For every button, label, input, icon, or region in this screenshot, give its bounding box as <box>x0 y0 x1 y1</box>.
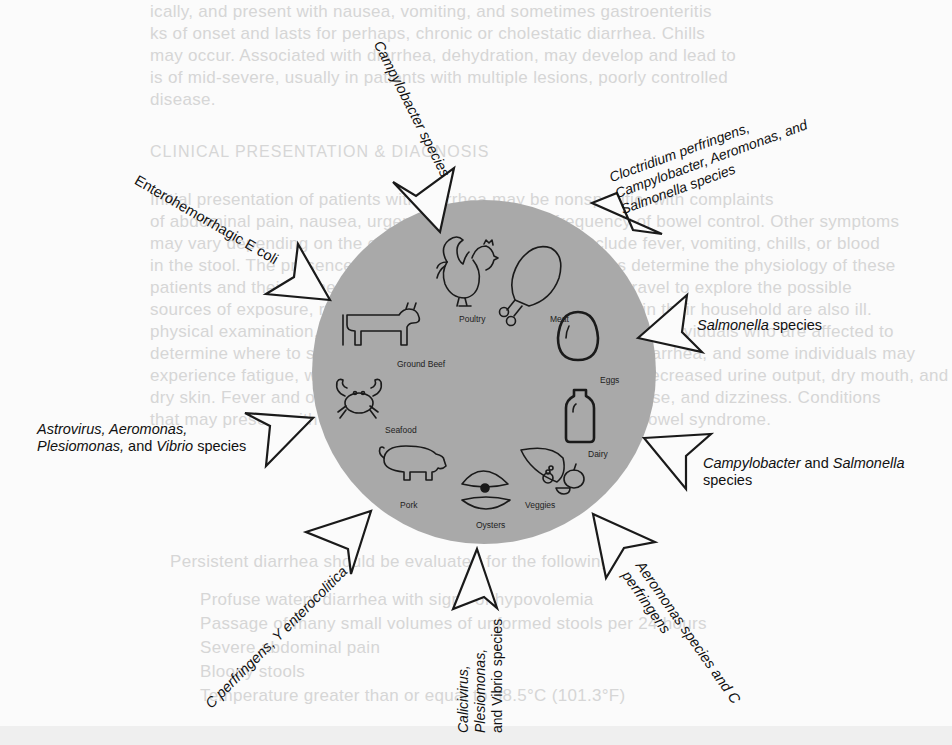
arrow-campy-salmonella <box>644 434 711 489</box>
food-label-seafood: Seafood <box>385 425 417 435</box>
label-astrovirus: Astrovirus, Aeromonas, Plesiomonas, and … <box>37 421 246 455</box>
label-calicivirus: Calicivirus, Plesiomonas, and Vibrio spe… <box>455 619 506 733</box>
food-label-dairy: Dairy <box>588 449 608 459</box>
food-label-ground-beef: Ground Beef <box>397 359 445 369</box>
label-campylobacter-salmonella: Campylobacter and Salmonella species <box>703 455 905 489</box>
food-label-poultry: Poultry <box>459 314 485 324</box>
foodborne-pathogen-diagram: Poultry Meat Eggs Dairy Veggies Oysters … <box>0 0 952 745</box>
food-label-eggs: Eggs <box>600 375 619 385</box>
food-label-oysters: Oysters <box>476 520 505 530</box>
food-label-veggies: Veggies <box>525 500 555 510</box>
arrow-astrovirus <box>245 413 313 466</box>
arrow-calicivirus <box>453 549 497 609</box>
label-salmonella: Salmonella species <box>697 317 822 334</box>
food-label-pork: Pork <box>400 500 417 510</box>
food-label-meat: Meat <box>550 314 569 324</box>
